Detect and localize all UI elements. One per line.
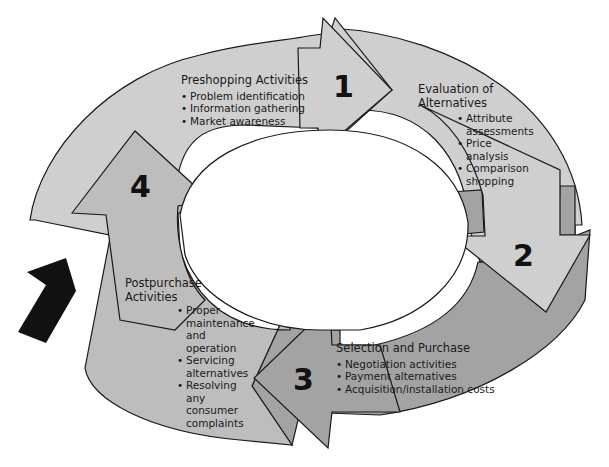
list-item: Price analysis: [457, 137, 537, 162]
stage-2-title-line-1: Evaluation of: [418, 83, 538, 97]
stage-3-list: Negotiation activities Payment alternati…: [336, 358, 516, 396]
list-item: Resolving any consumer complaints: [177, 379, 259, 429]
stage-2-number: 2: [513, 241, 534, 271]
list-item: Payment alternatives: [336, 370, 516, 383]
stage-4-title-line-2: Activities: [125, 291, 265, 305]
buying-process-cycle-diagram: 1 2 3 4 Preshopping Activities Problem i…: [0, 0, 609, 467]
stage-4-number: 4: [130, 172, 151, 202]
stage-3-title: Selection and Purchase: [336, 342, 516, 356]
stage-4-title-line-1: Postpurchase: [125, 277, 265, 291]
list-item: Comparison shopping: [457, 162, 537, 187]
list-item: Attribute assessments: [457, 112, 537, 137]
stage-3-text: Selection and Purchase Negotiation activ…: [336, 342, 516, 395]
list-item: Information gathering: [181, 102, 341, 115]
list-item: Servicing alternatives: [177, 354, 259, 379]
entry-arrow-icon: [18, 258, 76, 343]
stage-4-text: Postpurchase Activities Proper maintenan…: [125, 277, 265, 429]
stage-1-title: Preshopping Activities: [181, 74, 341, 88]
list-item: Acquisition/installation costs: [336, 383, 516, 396]
stage-1-text: Preshopping Activities Problem identific…: [181, 74, 341, 127]
list-item: Problem identification: [181, 90, 341, 103]
stage-2-list: Attribute assessments Price analysis Com…: [457, 112, 537, 187]
stage-4-list: Proper maintenance and operation Servici…: [177, 304, 259, 429]
list-item: Proper maintenance and operation: [177, 304, 259, 354]
stage-2-text: Evaluation of Alternatives Attribute ass…: [418, 83, 538, 187]
stage-3-number: 3: [293, 365, 314, 395]
stage-2-title-line-2: Alternatives: [418, 97, 538, 111]
list-item: Negotiation activities: [336, 358, 516, 371]
list-item: Market awareness: [181, 115, 341, 128]
stage-1-list: Problem identification Information gathe…: [181, 90, 341, 128]
